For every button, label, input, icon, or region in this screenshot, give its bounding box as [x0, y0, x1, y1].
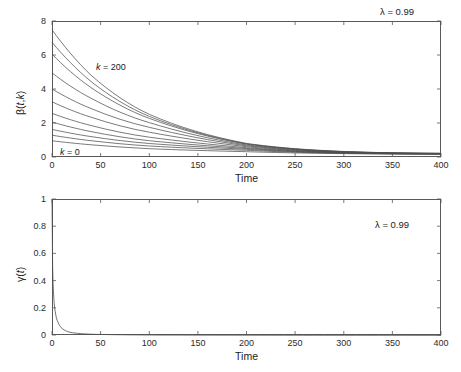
gamma-ytick-0: 0 — [24, 331, 46, 340]
beta-lambda-annotation: λ = 0.99 — [380, 6, 414, 17]
k-0-label-value: = 0 — [65, 147, 80, 157]
gamma-ytick-02: 0.2 — [24, 303, 46, 312]
gamma-xtick-350: 350 — [385, 339, 400, 348]
gamma-xtick-50: 50 — [96, 339, 106, 348]
beta-ytick-2: 2 — [32, 119, 46, 128]
k-200-label: k = 200 — [96, 62, 126, 72]
gamma-ylabel-post: ) — [14, 267, 26, 271]
gamma-xtick-300: 300 — [336, 339, 351, 348]
beta-ytick-0: 0 — [32, 153, 46, 162]
beta-xtick-200: 200 — [239, 161, 254, 170]
gamma-ytick-1: 1 — [24, 195, 46, 204]
beta-plot-svg — [0, 0, 461, 186]
beta-ylabel-pre: β( — [14, 105, 26, 115]
gamma-ytick-06: 0.6 — [24, 249, 46, 258]
beta-ylabel-mid: , — [14, 100, 26, 103]
beta-xtick-350: 350 — [385, 161, 400, 170]
beta-ytick-8: 8 — [32, 17, 46, 26]
gamma-panel: 0 0.2 0.4 0.6 0.8 1 0 50 100 150 200 250… — [0, 186, 461, 372]
gamma-xtick-200: 200 — [239, 339, 254, 348]
gamma-xtick-150: 150 — [190, 339, 205, 348]
beta-xtick-50: 50 — [96, 161, 106, 170]
figure-canvas: 0 2 4 6 8 0 50 100 150 200 250 300 350 4… — [0, 0, 461, 372]
gamma-ytick-04: 0.4 — [24, 276, 46, 285]
beta-xtick-150: 150 — [190, 161, 205, 170]
beta-ylabel-post: ) — [14, 91, 26, 95]
beta-panel: 0 2 4 6 8 0 50 100 150 200 250 300 350 4… — [0, 0, 461, 186]
gamma-ylabel-pre: γ( — [14, 273, 26, 282]
beta-ytick-4: 4 — [32, 85, 46, 94]
beta-ytick-6: 6 — [32, 51, 46, 60]
beta-xtick-100: 100 — [142, 161, 157, 170]
gamma-ylabel-t: t — [14, 270, 26, 273]
gamma-xtick-0: 0 — [49, 339, 54, 348]
beta-yaxis-title: β(t,k) — [14, 91, 26, 115]
beta-xtick-0: 0 — [49, 161, 54, 170]
beta-ylabel-k: k — [14, 94, 26, 99]
gamma-yaxis-title: γ(t) — [14, 267, 26, 282]
k-200-label-value: = 200 — [101, 62, 126, 72]
beta-xtick-250: 250 — [288, 161, 303, 170]
gamma-xaxis-title: Time — [235, 350, 258, 362]
k-0-label: k = 0 — [60, 147, 80, 157]
gamma-xtick-100: 100 — [142, 339, 157, 348]
beta-xtick-300: 300 — [336, 161, 351, 170]
gamma-lambda-annotation: λ = 0.99 — [375, 219, 409, 230]
gamma-xtick-400: 400 — [433, 339, 448, 348]
gamma-ytick-08: 0.8 — [24, 222, 46, 231]
gamma-xtick-250: 250 — [288, 339, 303, 348]
beta-xtick-400: 400 — [433, 161, 448, 170]
beta-curve-group — [52, 30, 441, 154]
beta-xaxis-title: Time — [235, 172, 258, 184]
